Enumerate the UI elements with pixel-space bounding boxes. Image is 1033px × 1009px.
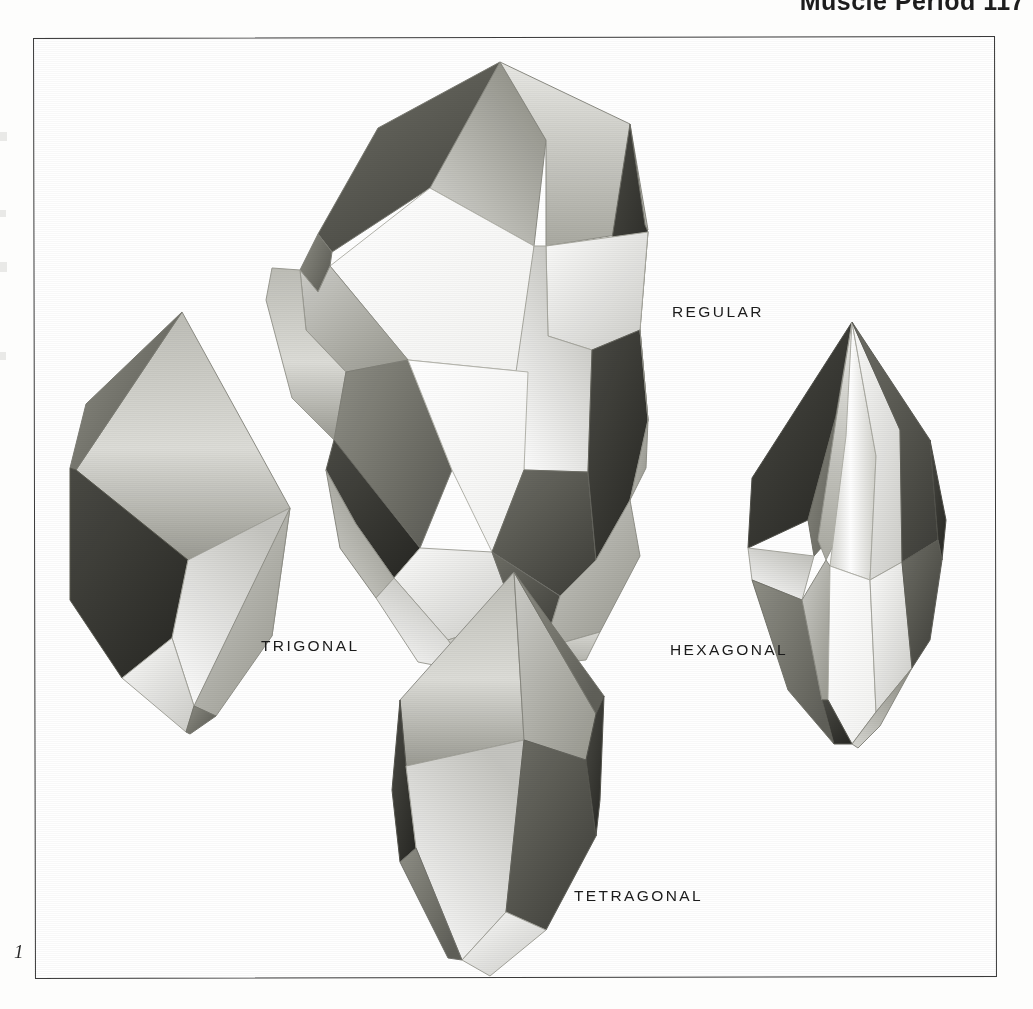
regular-polyhedron-dodecahedron	[266, 62, 648, 672]
crystal-label-regular: REGULAR	[672, 303, 764, 321]
crystal-systems-figure	[0, 0, 1033, 1009]
figure-number: 1	[14, 941, 24, 963]
crystal-label-hexagonal: HEXAGONAL	[670, 641, 788, 659]
crystal-label-tetragonal: TETRAGONAL	[574, 887, 703, 905]
trigonal-bipyramid-crystal	[70, 312, 290, 734]
crystal-label-trigonal: TRIGONAL	[261, 637, 359, 655]
hexagonal-bipyramid-crystal	[748, 322, 946, 748]
